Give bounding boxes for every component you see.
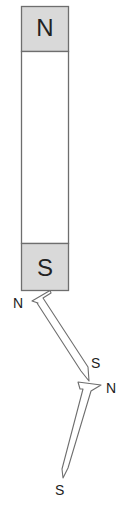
upper-nail-tip-label: S [91, 356, 100, 370]
upper-nail [32, 291, 89, 382]
magnet-north-label: N [21, 16, 69, 40]
bar-magnet [22, 7, 69, 291]
lower-nail-head-label: N [106, 381, 116, 395]
upper-nail-head-label: N [13, 296, 23, 310]
magnet-south-label: S [21, 256, 69, 280]
lower-nail-tip-label: S [55, 483, 64, 497]
lower-nail [62, 382, 101, 478]
magnet-body [22, 52, 69, 244]
